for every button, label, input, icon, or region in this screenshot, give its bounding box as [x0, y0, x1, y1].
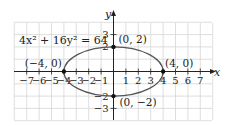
point-label: (−4, 0) [25, 57, 62, 69]
point-marker [111, 94, 115, 98]
ellipse-graph: −7−6−5−4−3−2−1123456732−2−3 (0, 2)(4, 0)… [0, 0, 235, 126]
x-tick-label: 7 [197, 75, 203, 86]
y-axis-arrow-icon [111, 10, 116, 16]
point-marker [62, 69, 66, 73]
point-marker [111, 45, 115, 49]
point-marker [161, 69, 165, 73]
x-tick-label: 1 [123, 75, 129, 86]
x-tick-label: 5 [172, 75, 178, 86]
x-tick-label: 2 [135, 75, 141, 86]
y-axis-label: y [104, 8, 112, 21]
x-tick-label: −1 [94, 75, 109, 86]
point-label: (4, 0) [165, 57, 193, 69]
x-tick-label: 6 [185, 75, 191, 86]
y-tick-label: −3 [94, 103, 109, 114]
x-axis-label: x [214, 66, 221, 79]
point-label: (0, 2) [119, 33, 147, 45]
point-label: (0, −2) [120, 96, 157, 108]
equation-label: 4x² + 16y² = 64 [19, 34, 108, 47]
x-tick-label: 3 [148, 75, 154, 86]
